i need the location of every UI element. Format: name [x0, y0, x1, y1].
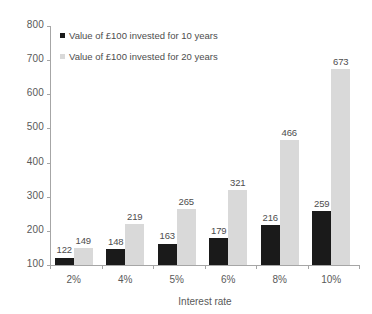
y-tick-label: 200 — [27, 224, 44, 235]
bar-chart: 800700600500400300200100 122149148219163… — [0, 0, 372, 314]
series-1-swatch-icon — [60, 54, 65, 59]
x-tick-mark — [359, 265, 360, 269]
bar-series-0-6% — [209, 238, 228, 265]
x-tick-label-2%: 2% — [49, 274, 99, 285]
legend-item-series-0: Value of £100 invested for 10 years — [60, 28, 218, 43]
y-tick-label: 600 — [27, 87, 44, 98]
legend-label-series-1: Value of £100 invested for 20 years — [69, 51, 218, 62]
bar-series-0-10% — [312, 211, 331, 265]
x-tick-mark — [153, 265, 154, 269]
x-tick-label-8%: 8% — [255, 274, 305, 285]
chart-legend: Value of £100 invested for 10 years Valu… — [60, 28, 218, 70]
x-tick-label-5%: 5% — [152, 274, 202, 285]
bar-value-label: 149 — [70, 235, 97, 246]
x-tick-label-10%: 10% — [306, 274, 356, 285]
series-0-swatch-icon — [60, 33, 65, 38]
y-tick-label: 800 — [27, 19, 44, 30]
bar-value-label: 466 — [276, 127, 303, 138]
bar-series-0-4% — [106, 249, 125, 265]
bar-value-label: 321 — [224, 177, 251, 188]
bar-value-label: 265 — [173, 196, 200, 207]
x-tick-mark — [205, 265, 206, 269]
bar-series-1-2% — [74, 248, 93, 265]
y-tick-label: 400 — [27, 156, 44, 167]
x-tick-label-4%: 4% — [100, 274, 150, 285]
x-tick-label-6%: 6% — [203, 274, 253, 285]
bar-series-0-5% — [158, 244, 177, 266]
legend-label-series-0: Value of £100 invested for 10 years — [69, 30, 218, 41]
bar-series-1-6% — [228, 190, 247, 265]
bar-series-0-8% — [261, 225, 280, 265]
bar-value-label: 219 — [121, 211, 148, 222]
y-tick-label: 700 — [27, 53, 44, 64]
bar-value-label: 673 — [327, 56, 354, 67]
y-tick-label: 300 — [27, 190, 44, 201]
bar-series-1-10% — [331, 69, 350, 265]
y-tick-label: 100 — [27, 258, 44, 269]
x-tick-mark — [308, 265, 309, 269]
x-tick-mark — [50, 265, 51, 269]
bar-series-1-4% — [125, 224, 144, 265]
legend-item-series-1: Value of £100 invested for 20 years — [60, 49, 218, 64]
bar-series-1-8% — [280, 140, 299, 265]
y-tick-label: 500 — [27, 121, 44, 132]
x-axis-title: Interest rate — [50, 296, 360, 307]
x-tick-mark — [256, 265, 257, 269]
bar-series-1-5% — [177, 209, 196, 265]
x-tick-mark — [102, 265, 103, 269]
bar-series-0-2% — [55, 258, 74, 266]
